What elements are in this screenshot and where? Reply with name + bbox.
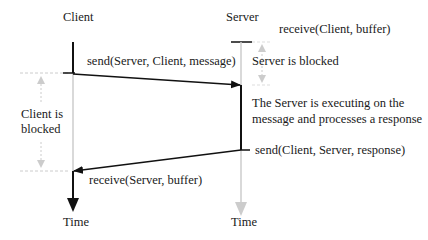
client-time-label: Time bbox=[63, 216, 89, 229]
send-response-label: send(Client, Server, response) bbox=[255, 144, 405, 157]
client-time-arrow-icon bbox=[67, 198, 79, 212]
server-receive-label: receive(Client, buffer) bbox=[279, 23, 391, 36]
server-lifeline bbox=[231, 42, 252, 216]
server-blocked-label: Server is blocked bbox=[252, 55, 339, 68]
send-message-label: send(Server, Client, message) bbox=[87, 55, 236, 68]
arrow-up-icon bbox=[37, 76, 45, 84]
server-executing-label-1: The Server is executing on the bbox=[252, 97, 404, 110]
client-header: Client bbox=[63, 11, 94, 24]
client-blocked-label-1: Client is bbox=[21, 108, 63, 121]
server-time-arrow-icon bbox=[235, 202, 247, 216]
server-header: Server bbox=[226, 11, 259, 24]
server-time-label: Time bbox=[231, 216, 257, 229]
arrow-down-icon bbox=[258, 75, 266, 83]
client-lifeline bbox=[67, 42, 79, 212]
send-message-arrow bbox=[73, 74, 240, 85]
send-response-arrow bbox=[74, 150, 241, 171]
client-receive-label: receive(Server, buffer) bbox=[89, 174, 202, 187]
client-blocked-label-2: blocked bbox=[21, 123, 61, 136]
server-executing-label-2: message and processes a response bbox=[252, 113, 422, 126]
arrow-down-icon bbox=[37, 160, 45, 168]
arrow-up-icon bbox=[258, 44, 266, 52]
